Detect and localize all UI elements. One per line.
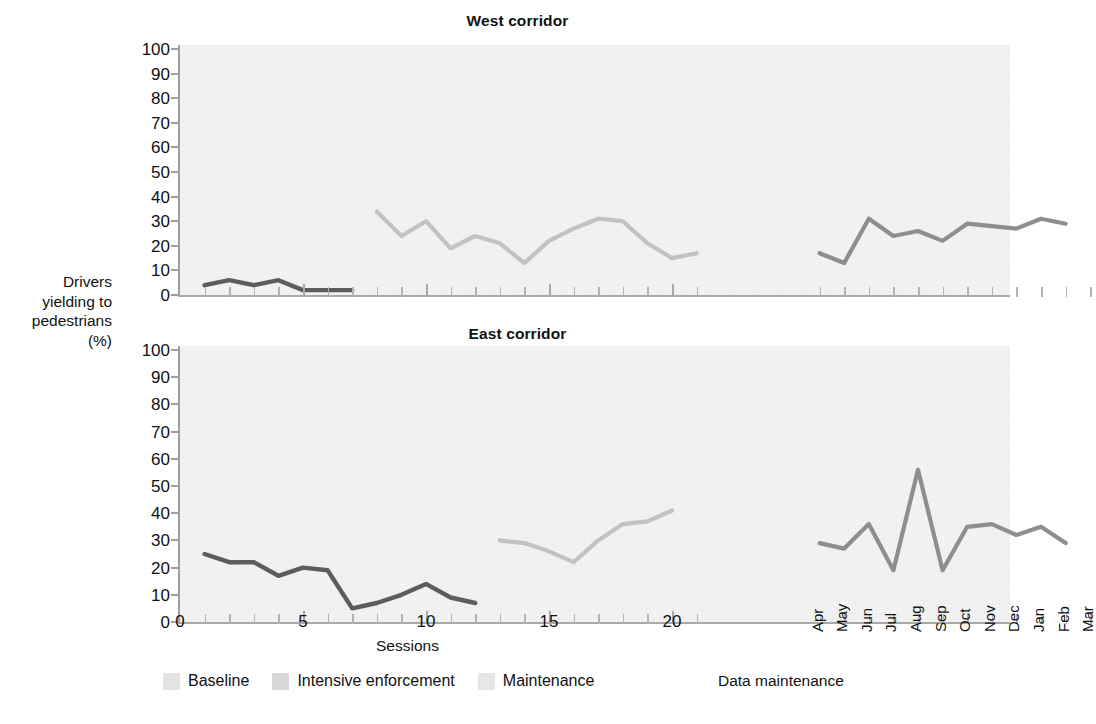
x-tick xyxy=(647,287,649,297)
x-tick-label-session: 5 xyxy=(298,612,307,632)
legend-swatch-baseline xyxy=(163,673,180,690)
y-tick-label: 0 xyxy=(118,614,170,631)
y-tick xyxy=(171,97,178,99)
y-tick-labels-west: 0102030405060708090100 xyxy=(118,45,170,297)
legend-label-maintenance: Maintenance xyxy=(503,672,595,690)
x-tick-month xyxy=(943,287,945,297)
x-tick-month xyxy=(1066,287,1068,297)
y-tick xyxy=(171,349,178,351)
x-tick-label-month: Jul xyxy=(882,613,899,632)
x-tick-month xyxy=(893,287,895,297)
y-tick xyxy=(171,458,178,460)
x-tick-month xyxy=(918,287,920,297)
x-tick-label-month: Oct xyxy=(956,609,973,632)
x-tick-label-month: Jun xyxy=(858,608,875,632)
x-tick xyxy=(475,287,477,297)
y-tick xyxy=(171,220,178,222)
y-axis-title-line-2: yielding to xyxy=(0,292,112,312)
y-tick-label: 100 xyxy=(118,41,170,58)
legend: Baseline Intensive enforcement Maintenan… xyxy=(163,672,608,690)
panel-east-corridor: East corridor xyxy=(178,325,1010,615)
x-tick xyxy=(672,284,674,297)
panel-title-west: West corridor xyxy=(0,12,1035,30)
y-tick-label: 60 xyxy=(118,139,170,156)
x-tick-label-session: 0 xyxy=(175,612,184,632)
x-tick-month xyxy=(869,287,871,297)
x-tick xyxy=(500,287,502,297)
y-tick-label: 20 xyxy=(118,559,170,576)
y-tick-label: 30 xyxy=(118,213,170,230)
y-tick xyxy=(171,431,178,433)
y-tick xyxy=(171,294,178,296)
x-tick-label-session: 20 xyxy=(663,612,682,632)
y-tick-label: 40 xyxy=(118,188,170,205)
legend-item-baseline[interactable]: Baseline xyxy=(163,672,249,690)
x-tick xyxy=(303,284,305,297)
x-tick-label-month: Dec xyxy=(1005,605,1022,632)
x-tick-month xyxy=(1090,287,1092,297)
x-tick xyxy=(352,287,354,297)
y-tick-label: 40 xyxy=(118,505,170,522)
y-tick xyxy=(171,512,178,514)
legend-item-intensive-enforcement[interactable]: Intensive enforcement xyxy=(272,672,454,690)
series-line-maintenance xyxy=(820,470,1066,571)
x-tick-label-session: 10 xyxy=(417,612,436,632)
y-axis-title-line-1: Drivers xyxy=(0,272,112,292)
x-tick-label-month: Mar xyxy=(1079,606,1096,632)
x-tick xyxy=(623,287,625,297)
y-tick xyxy=(171,567,178,569)
y-tick xyxy=(171,485,178,487)
y-tick-label: 80 xyxy=(118,90,170,107)
y-tick xyxy=(171,171,178,173)
series-layer-west xyxy=(178,45,1010,297)
x-tick-label-session: 15 xyxy=(540,612,559,632)
y-tick-label: 0 xyxy=(118,287,170,304)
x-tick xyxy=(328,287,330,297)
y-tick-label: 20 xyxy=(118,237,170,254)
x-tick xyxy=(254,287,256,297)
x-axis-caption-data-maintenance: Data maintenance xyxy=(718,672,844,690)
panel-west-corridor: West corridor xyxy=(178,12,1010,302)
x-tick xyxy=(229,287,231,297)
y-tick-label: 50 xyxy=(118,478,170,495)
y-tick-labels-east: 0102030405060708090100 xyxy=(118,346,170,624)
y-axis-title: Drivers yielding to pedestrians (%) xyxy=(0,272,112,351)
y-tick-label: 50 xyxy=(118,164,170,181)
y-tick xyxy=(171,269,178,271)
x-tick xyxy=(278,287,280,297)
legend-swatch-intensive-enforcement xyxy=(272,673,289,690)
x-tick xyxy=(549,284,551,297)
legend-label-baseline: Baseline xyxy=(188,672,249,690)
y-tick-label: 70 xyxy=(118,114,170,131)
x-tick xyxy=(451,287,453,297)
y-tick-label: 80 xyxy=(118,396,170,413)
x-tick-month xyxy=(844,287,846,297)
x-tick-label-month: Sep xyxy=(932,605,949,632)
x-tick xyxy=(524,287,526,297)
x-tick-label-month: Nov xyxy=(981,605,998,632)
y-tick-label: 90 xyxy=(118,369,170,386)
series-line-baseline xyxy=(205,554,476,608)
series-line-maintenance xyxy=(820,219,1066,263)
x-tick xyxy=(377,287,379,297)
legend-label-intensive-enforcement: Intensive enforcement xyxy=(297,672,454,690)
y-tick-label: 100 xyxy=(118,342,170,359)
plot-area-east xyxy=(178,346,1010,624)
y-tick xyxy=(171,539,178,541)
y-tick-label: 30 xyxy=(118,532,170,549)
legend-item-maintenance[interactable]: Maintenance xyxy=(478,672,595,690)
y-tick-label: 60 xyxy=(118,450,170,467)
x-tick xyxy=(401,287,403,297)
x-tick xyxy=(205,287,207,297)
x-tick-month xyxy=(967,287,969,297)
y-tick-label: 90 xyxy=(118,65,170,82)
y-tick xyxy=(171,48,178,50)
y-tick xyxy=(171,376,178,378)
y-axis-title-line-3: pedestrians xyxy=(0,311,112,331)
series-line-intensive-enforcement xyxy=(377,211,697,263)
y-tick xyxy=(171,403,178,405)
y-tick-label: 10 xyxy=(118,586,170,603)
x-tick xyxy=(574,287,576,297)
x-tick xyxy=(697,287,699,297)
